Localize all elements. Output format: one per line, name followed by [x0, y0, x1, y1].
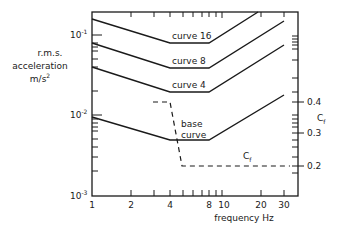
chart: 10-1 10-2 10-3 r.m.s. acceleration m/s2 …	[0, 0, 340, 232]
y-tick-label-1: 10-2	[70, 108, 88, 120]
y-tick-label-0: 10-1	[70, 28, 88, 40]
x-axis-title: frequency Hz	[214, 213, 274, 223]
curve-4-label: curve 4	[172, 80, 206, 90]
y2-tick-label-0.2: 0.2	[307, 161, 321, 171]
base-curve-label-line2: curve	[181, 130, 207, 140]
y-axis-title-line2: acceleration	[12, 61, 67, 71]
y-axis-ticks	[92, 35, 102, 171]
x-tick-label-4: 4	[167, 200, 173, 210]
x-tick-label-2: 2	[128, 200, 134, 210]
y2-axis-title: Cf	[317, 113, 326, 125]
y-tick-label-2: 10-3	[70, 189, 88, 201]
y-axis-title-line1: r.m.s.	[38, 48, 63, 58]
cf-dashed-line	[153, 102, 290, 166]
x-tick-label-8: 8	[206, 200, 212, 210]
x-tick-label-10: 10	[218, 200, 230, 210]
x-tick-label-30: 30	[278, 200, 290, 210]
cf-curve-label: Cf	[243, 151, 252, 163]
curve-16-label: curve 16	[172, 31, 212, 41]
y2-tick-label-0.3: 0.3	[307, 128, 321, 138]
x-tick-label-20: 20	[255, 200, 267, 210]
x-tick-label-1: 1	[89, 200, 95, 210]
base-curve-label-line1: base	[181, 119, 203, 129]
y-axis-title-line3: m/s2	[30, 72, 51, 84]
y2-tick-label-0.4: 0.4	[307, 97, 322, 107]
curve-8-label: curve 8	[172, 56, 206, 66]
